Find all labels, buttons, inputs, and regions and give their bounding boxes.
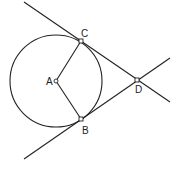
point-a-label: A (46, 76, 53, 87)
radius-ab (56, 81, 81, 119)
point-d-marker (135, 78, 139, 82)
tangent-line-bd (24, 58, 170, 159)
point-b-marker (79, 117, 83, 121)
radius-ac (56, 41, 81, 81)
point-a-marker (54, 79, 58, 83)
point-c-marker (79, 39, 83, 43)
geometry-diagram: A B C D (0, 0, 179, 169)
tangent-line-cd (24, 2, 170, 102)
point-b-label: B (82, 125, 89, 136)
point-c-label: C (81, 28, 88, 39)
point-d-label: D (135, 84, 142, 95)
